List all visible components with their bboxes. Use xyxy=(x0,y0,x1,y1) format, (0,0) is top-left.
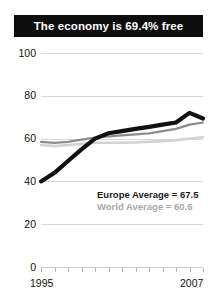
y-tick-label-100: 100 xyxy=(8,47,36,59)
x-tick xyxy=(68,268,69,272)
x-tick xyxy=(136,268,137,272)
x-tick xyxy=(55,268,56,272)
x-tick xyxy=(109,268,110,272)
plot-area xyxy=(41,53,203,267)
x-tick xyxy=(203,268,204,272)
chart-container: The economy is 69.4% free 100 80 60 40 2… xyxy=(0,0,216,304)
x-tick xyxy=(95,268,96,272)
y-tick-label-0: 0 xyxy=(8,261,36,273)
x-tick xyxy=(176,268,177,272)
x-tick-label-end: 2007 xyxy=(180,277,203,289)
y-tick-label-20: 20 xyxy=(8,218,36,230)
y-tick-label-80: 80 xyxy=(8,89,36,101)
x-tick xyxy=(190,268,191,272)
legend: Europe Average = 67.5 World Average = 60… xyxy=(97,189,207,213)
x-tick xyxy=(82,268,83,272)
x-tick xyxy=(122,268,123,272)
legend-item-europe-average: Europe Average = 67.5 xyxy=(97,189,207,201)
x-tick xyxy=(163,268,164,272)
y-tick-label-40: 40 xyxy=(8,175,36,187)
series-lines xyxy=(41,53,203,267)
x-tick-label-start: 1995 xyxy=(30,277,53,289)
x-tick xyxy=(149,268,150,272)
x-tick xyxy=(41,268,42,272)
y-tick-label-60: 60 xyxy=(8,132,36,144)
series-line-country xyxy=(41,113,203,181)
legend-item-world-average: World Average = 60.6 xyxy=(97,201,207,213)
